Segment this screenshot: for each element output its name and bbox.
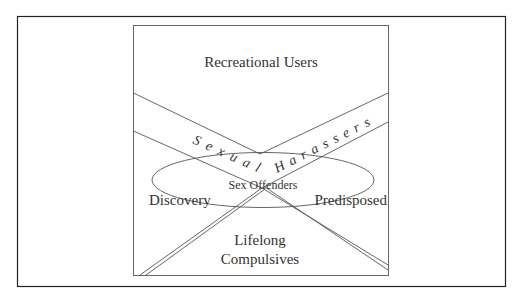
label-discovery: Discovery [149, 192, 211, 208]
label-compulsives: Compulsives [221, 251, 300, 267]
label-predisposed: Predisposed [315, 192, 388, 208]
label-recreational-users: Recreational Users [204, 54, 318, 70]
sex-offender-typology-diagram: Recreational Users Sexual Harassers Sex … [0, 0, 523, 303]
label-sexual: Sexual [191, 132, 270, 178]
label-sex-offenders: Sex Offenders [229, 178, 298, 192]
label-harassers: Harassers [271, 112, 378, 176]
label-lifelong: Lifelong [234, 232, 286, 248]
